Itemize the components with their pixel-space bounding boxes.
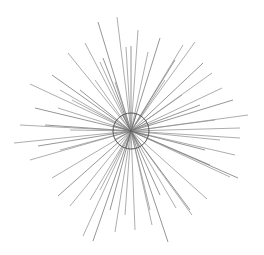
- starburst-rays: [14, 17, 248, 242]
- ray-line: [131, 131, 176, 208]
- ray-line: [131, 131, 160, 195]
- ray-line: [52, 75, 131, 131]
- ray-line: [131, 100, 233, 131]
- starburst-drawing: [0, 0, 264, 255]
- ray-line: [131, 105, 200, 131]
- ray-line: [70, 131, 131, 206]
- starburst-illustration: [0, 0, 264, 255]
- ray-line: [83, 131, 131, 236]
- ray-line: [68, 53, 131, 131]
- ray-line: [131, 131, 220, 140]
- ray-line: [100, 62, 131, 131]
